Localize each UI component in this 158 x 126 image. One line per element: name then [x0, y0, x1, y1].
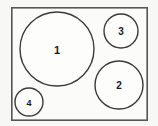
circle-4-label: 4: [26, 98, 31, 108]
circle-2-label: 2: [116, 80, 122, 91]
circle-1-label: 1: [54, 44, 60, 56]
circle-packing-diagram: 1 2 3 4: [0, 0, 158, 126]
figure-canvas: 1 2 3 4: [0, 0, 158, 126]
circle-3-label: 3: [118, 26, 124, 37]
